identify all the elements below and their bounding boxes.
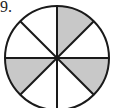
shaded-sector-top-right: [57, 6, 94, 58]
fraction-circle-diagram: [0, 0, 113, 108]
shaded-sector-right-lower: [57, 58, 109, 95]
shaded-sector-left-lower: [5, 58, 57, 95]
